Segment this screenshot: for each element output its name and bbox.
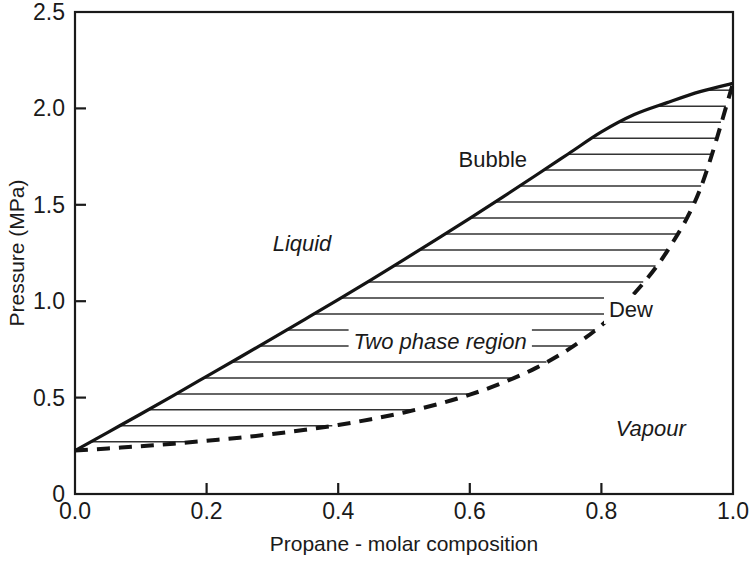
x-tick-label: 0.6 xyxy=(454,498,486,524)
y-axis-title: Pressure (MPa) xyxy=(5,179,28,326)
y-tick-label: 0 xyxy=(52,481,65,507)
y-tick-label: 1.0 xyxy=(33,288,65,314)
x-tick-label: 0.2 xyxy=(191,498,223,524)
y-tick-label: 2.0 xyxy=(33,95,65,121)
x-axis-title: Propane - molar composition xyxy=(270,532,538,555)
vle-phase-diagram-figure: 0.00.20.40.60.81.0 00.51.01.52.02.5 Bubb… xyxy=(0,0,756,565)
x-tick-label: 1.0 xyxy=(717,498,749,524)
x-tick-label: 0.4 xyxy=(322,498,354,524)
x-axis-tick-labels: 0.00.20.40.60.81.0 xyxy=(59,498,749,524)
annotation-vapour: Vapour xyxy=(616,416,688,441)
annotation-bubble: Bubble xyxy=(459,147,528,172)
annotation-liquid: Liquid xyxy=(273,231,332,256)
y-tick-label: 2.5 xyxy=(33,0,65,25)
y-tick-label: 1.5 xyxy=(33,192,65,218)
chart-canvas: 0.00.20.40.60.81.0 00.51.01.52.02.5 Bubb… xyxy=(0,0,756,565)
annotation-dew: Dew xyxy=(609,297,653,322)
y-axis-tick-labels: 00.51.01.52.02.5 xyxy=(33,0,65,507)
x-tick-label: 0.8 xyxy=(585,498,617,524)
chart-annotations: BubbleDewLiquidTwo phase regionVapour xyxy=(268,145,693,443)
y-tick-label: 0.5 xyxy=(33,385,65,411)
annotation-two-phase-region: Two phase region xyxy=(354,329,527,354)
